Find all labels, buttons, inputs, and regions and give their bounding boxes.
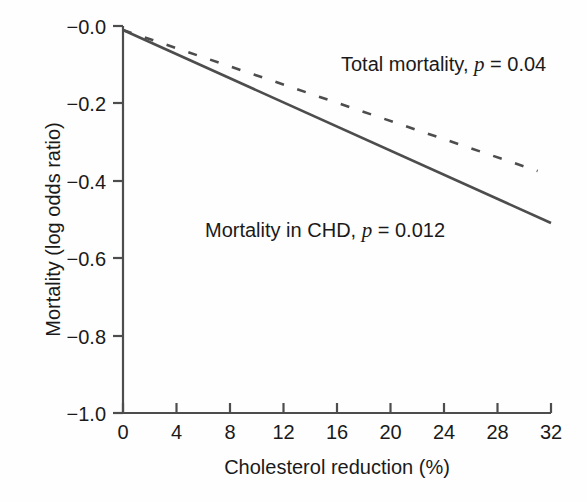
x-tick-marks: [123, 403, 551, 413]
annotation-total-suffix: = 0.04: [485, 53, 547, 75]
series-annotation-mortality-in-chd: Mortality in CHD, p = 0.012: [205, 218, 445, 243]
x-tick-label-2: 8: [210, 421, 250, 444]
annotation-chd-suffix: = 0.012: [372, 219, 445, 241]
x-tick-label-4: 16: [317, 421, 357, 444]
chart-figure: −0.0 −0.2 −0.4 −0.6 −0.8 −1.0 0 4 8 12 1…: [0, 0, 587, 502]
y-tick-label-0: −0.0: [30, 16, 106, 39]
y-tick-label-5: −1.0: [30, 403, 106, 426]
annotation-total-p-symbol: p: [474, 52, 485, 76]
x-tick-label-3: 12: [264, 421, 304, 444]
annotation-chd-prefix: Mortality in CHD,: [205, 219, 362, 241]
y-axis-title: Mortality (log odds ratio): [42, 80, 65, 380]
x-tick-label-0: 0: [103, 421, 143, 444]
y-tick-marks: [113, 26, 123, 413]
x-axis-title: Cholesterol reduction (%): [123, 456, 551, 479]
x-tick-label-1: 4: [157, 421, 197, 444]
series-annotation-total-mortality: Total mortality, p = 0.04: [341, 52, 546, 77]
x-tick-label-7: 28: [478, 421, 518, 444]
annotation-total-prefix: Total mortality,: [341, 53, 474, 75]
x-tick-label-8: 32: [531, 421, 571, 444]
x-tick-label-5: 20: [371, 421, 411, 444]
x-tick-label-6: 24: [424, 421, 464, 444]
annotation-chd-p-symbol: p: [362, 218, 373, 242]
